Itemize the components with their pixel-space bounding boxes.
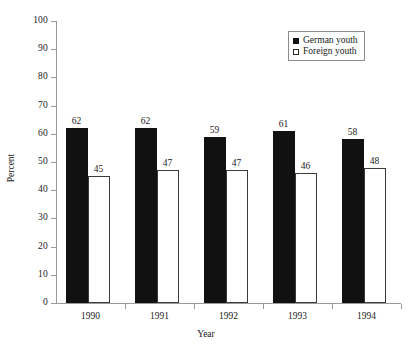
y-axis-tick bbox=[51, 190, 57, 191]
bar-value-label: 58 bbox=[336, 127, 370, 137]
bar-foreign-youth-1991 bbox=[157, 170, 179, 303]
bar-foreign-youth-1994 bbox=[364, 168, 386, 303]
legend-swatch-open-icon bbox=[293, 49, 299, 55]
y-axis-tick-label: 40 bbox=[38, 185, 48, 195]
bar-german-youth-1990 bbox=[66, 128, 88, 303]
x-axis-tick bbox=[125, 304, 126, 309]
y-axis-tick-label: 80 bbox=[38, 72, 48, 82]
y-axis-tick bbox=[51, 134, 57, 135]
y-axis-tick bbox=[51, 21, 57, 22]
y-axis-tick bbox=[51, 218, 57, 219]
y-axis-tick-label: 70 bbox=[38, 101, 48, 111]
y-axis-tick-label: 60 bbox=[38, 129, 48, 139]
legend-item-foreign-youth: Foreign youth bbox=[293, 46, 358, 57]
chart-legend: German youth Foreign youth bbox=[288, 31, 365, 61]
bar-foreign-youth-1993 bbox=[295, 173, 317, 303]
x-axis-tick-label: 1994 bbox=[332, 311, 401, 322]
bar-value-label: 61 bbox=[267, 119, 301, 129]
x-axis-tick bbox=[194, 304, 195, 309]
x-axis-title: Year bbox=[0, 329, 412, 339]
x-axis-tick bbox=[263, 304, 264, 309]
y-axis-tick bbox=[51, 247, 57, 248]
y-axis-tick bbox=[51, 77, 57, 78]
bar-value-label: 47 bbox=[220, 158, 254, 168]
bar-value-label: 47 bbox=[151, 158, 185, 168]
x-axis-tick-label: 1991 bbox=[125, 311, 194, 322]
bar-value-label: 62 bbox=[129, 116, 163, 126]
y-axis-tick-label: 100 bbox=[33, 16, 48, 26]
bar-value-label: 46 bbox=[289, 161, 323, 171]
bar-value-label: 48 bbox=[358, 156, 392, 166]
y-axis-tick bbox=[51, 49, 57, 50]
y-axis-tick bbox=[51, 275, 57, 276]
bar-value-label: 62 bbox=[60, 116, 94, 126]
y-axis-tick-label: 0 bbox=[43, 298, 48, 308]
bar-german-youth-1991 bbox=[135, 128, 157, 303]
bar-chart: 0102030405060708090100 19901991199219931… bbox=[0, 0, 412, 352]
x-axis-line bbox=[56, 303, 401, 304]
y-axis-tick bbox=[51, 303, 57, 304]
x-axis-tick bbox=[401, 304, 402, 309]
x-axis-tick-label: 1992 bbox=[194, 311, 263, 322]
x-axis-tick-label: 1990 bbox=[56, 311, 125, 322]
legend-item-german-youth: German youth bbox=[293, 35, 358, 46]
y-axis-tick-label: 30 bbox=[38, 213, 48, 223]
bar-value-label: 59 bbox=[198, 125, 232, 135]
x-axis-tick bbox=[332, 304, 333, 309]
y-axis-tick bbox=[51, 162, 57, 163]
y-axis-tick-label: 10 bbox=[38, 270, 48, 280]
bar-foreign-youth-1990 bbox=[88, 176, 110, 303]
y-axis-title: Percent bbox=[6, 138, 16, 198]
x-axis-tick-label: 1993 bbox=[263, 311, 332, 322]
y-axis-tick-label: 20 bbox=[38, 242, 48, 252]
bar-value-label: 45 bbox=[82, 164, 116, 174]
bar-german-youth-1993 bbox=[273, 131, 295, 303]
y-axis-tick bbox=[51, 106, 57, 107]
legend-swatch-filled-icon bbox=[293, 38, 299, 44]
legend-label-foreign-youth: Foreign youth bbox=[303, 46, 357, 57]
y-axis-tick-label: 90 bbox=[38, 44, 48, 54]
bar-foreign-youth-1992 bbox=[226, 170, 248, 303]
legend-label-german-youth: German youth bbox=[303, 35, 358, 46]
y-axis-tick-label: 50 bbox=[38, 157, 48, 167]
